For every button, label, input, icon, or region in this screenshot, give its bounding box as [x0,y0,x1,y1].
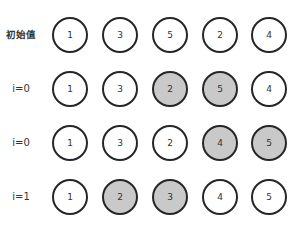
node: 5 [251,179,287,215]
row-label: i=0 [4,71,38,107]
node: 1 [52,125,88,161]
row-label: i=1 [4,179,38,215]
node: 1 [52,179,88,215]
node: 4 [251,71,287,107]
row-step-1: i=0 1 3 2 5 4 [0,71,299,107]
node-highlighted: 5 [251,125,287,161]
node-highlighted: 2 [152,71,188,107]
node: 1 [52,71,88,107]
node: 3 [102,71,138,107]
node-highlighted: 3 [152,179,188,215]
node: 3 [102,17,138,53]
node-highlighted: 4 [202,125,238,161]
node-highlighted: 2 [102,179,138,215]
row-initial: 初始值 1 3 5 2 4 [0,17,299,53]
row-step-2: i=0 1 3 2 4 5 [0,125,299,161]
node: 1 [52,17,88,53]
row-label: 初始值 [4,17,38,53]
row-label: i=0 [4,125,38,161]
node: 2 [152,125,188,161]
node: 2 [202,17,238,53]
row-step-3: i=1 1 2 3 4 5 [0,179,299,215]
node: 3 [102,125,138,161]
node-highlighted: 5 [202,71,238,107]
node: 4 [251,17,287,53]
node: 4 [202,179,238,215]
node: 5 [152,17,188,53]
